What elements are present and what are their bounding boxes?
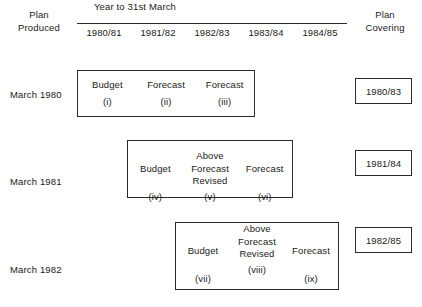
header-plan-produced-line2: Produced (18, 22, 60, 33)
plan-cell-ref: (vi) (237, 191, 292, 204)
plan-cell-budget-iv: Budget (iv) (128, 141, 183, 204)
diagram-canvas: Plan Produced Year to 31st March 1980/81… (0, 0, 422, 307)
plan-cell-title-line2: Forecast (230, 236, 284, 249)
row-label-march-1982: March 1982 (10, 263, 80, 276)
header-year-1982-83: 1982/83 (185, 26, 239, 40)
header-plan-produced: Plan Produced (6, 8, 72, 34)
plan-cell-ref: (i) (78, 96, 137, 109)
plan-cell-title-line1: Above (183, 150, 238, 163)
plan-box-cells: Budget (iv) Above Forecast Revised (v) F… (128, 141, 292, 197)
plan-cell-title-line2: Forecast (183, 163, 238, 176)
plan-cell-title-line3: Revised (183, 175, 238, 188)
plan-cell-ref: (iv) (128, 191, 183, 204)
plan-cell-ref: (v) (183, 191, 238, 204)
covering-box-1980-83: 1980/83 (355, 78, 412, 104)
row-label-march-1980: March 1980 (10, 88, 80, 101)
header-plan-produced-line1: Plan (29, 9, 49, 20)
covering-box-1981-84: 1981/84 (355, 150, 412, 176)
plan-cell-above-forecast-revised-viii: Above Forecast Revised (viii) (230, 223, 284, 277)
plan-cell-title-line1: Above (230, 223, 284, 236)
plan-box-march-1982: Budget (vii) Above Forecast Revised (vii… (175, 222, 339, 290)
header-plan-covering: Plan Covering (352, 8, 418, 34)
header-plan-covering-line1: Plan (375, 9, 395, 20)
plan-cell-title-line3: Revised (230, 248, 284, 261)
plan-box-cells: Budget (vii) Above Forecast Revised (vii… (176, 223, 338, 289)
plan-cell-title: Forecast (195, 79, 254, 92)
header-year-row: 1980/81 1981/82 1982/83 1983/84 1984/85 (77, 26, 347, 40)
header-year-1981-82: 1981/82 (131, 26, 185, 40)
plan-cell-title: Budget (78, 79, 137, 92)
header-year-1980-81: 1980/81 (77, 26, 131, 40)
plan-cell-forecast-vi: Forecast (vi) (237, 141, 292, 204)
plan-cell-title: Forecast (137, 79, 196, 92)
plan-cell-budget-i: Budget (i) (78, 79, 137, 108)
plan-box-march-1981: Budget (iv) Above Forecast Revised (v) F… (127, 140, 293, 198)
plan-box-march-1980: Budget (i) Forecast (ii) Forecast (iii) (77, 70, 255, 117)
plan-cell-title: Forecast (237, 163, 292, 176)
plan-cell-ref: (viii) (230, 264, 284, 277)
header-year-1984-85: 1984/85 (293, 26, 347, 40)
plan-box-cells: Budget (i) Forecast (ii) Forecast (iii) (78, 71, 254, 116)
plan-cell-title: Budget (128, 163, 183, 176)
covering-box-1982-85: 1982/85 (355, 227, 412, 253)
plan-cell-ref: (vii) (176, 273, 230, 286)
plan-cell-ref: (iii) (195, 96, 254, 109)
header-plan-covering-line2: Covering (365, 22, 404, 33)
plan-cell-title: Forecast (284, 245, 338, 258)
row-label-march-1981: March 1981 (10, 175, 80, 188)
plan-cell-above-forecast-revised-v: Above Forecast Revised (v) (183, 141, 238, 204)
plan-cell-ref: (ix) (284, 273, 338, 286)
plan-cell-ref: (ii) (137, 96, 196, 109)
plan-cell-title: Budget (176, 245, 230, 258)
plan-cell-forecast-ii: Forecast (ii) (137, 79, 196, 108)
plan-cell-budget-vii: Budget (vii) (176, 223, 230, 286)
plan-cell-forecast-iii: Forecast (iii) (195, 79, 254, 108)
plan-cell-forecast-ix: Forecast (ix) (284, 223, 338, 286)
header-year-1983-84: 1983/84 (239, 26, 293, 40)
header-rule (77, 23, 347, 24)
